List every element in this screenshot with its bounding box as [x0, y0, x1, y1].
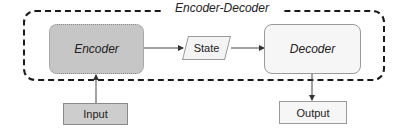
- output-node: Output: [279, 101, 347, 124]
- state-label: State: [194, 42, 220, 54]
- output-label: Output: [296, 107, 329, 119]
- encoder-node: Encoder: [49, 24, 144, 74]
- decoder-label: Decoder: [290, 42, 335, 56]
- decoder-node: Decoder: [264, 24, 361, 74]
- encoder-decoder-diagram: Encoder-Decoder Encoder State Decoder In…: [0, 0, 407, 133]
- encoder-label: Encoder: [74, 42, 119, 56]
- input-node: Input: [63, 103, 128, 125]
- input-label: Input: [83, 108, 107, 120]
- state-node: State: [181, 36, 232, 60]
